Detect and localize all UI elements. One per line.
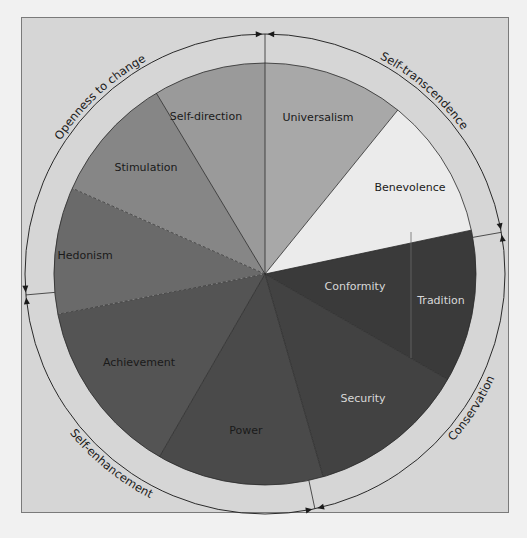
- label-self-direction: Self-direction: [170, 110, 242, 123]
- arrowhead-icon: [317, 504, 324, 510]
- label-achievement: Achievement: [103, 356, 176, 369]
- arrowhead-icon: [305, 508, 312, 514]
- label-tradition: Tradition: [416, 294, 465, 307]
- boundary-tick: [473, 232, 502, 237]
- label-hedonism: Hedonism: [57, 249, 112, 262]
- label-security: Security: [340, 392, 386, 405]
- arrowhead-icon: [22, 286, 28, 293]
- arrowhead-icon: [24, 297, 30, 304]
- label-power: Power: [229, 424, 263, 437]
- arrowhead-icon: [497, 223, 503, 230]
- arrowhead-icon: [500, 235, 506, 242]
- label-universalism: Universalism: [283, 111, 354, 124]
- values-circle-diagram: Self-directionUniversalismBenevolenceCon…: [0, 0, 527, 538]
- higher-order-label-conservation: Conservation: [445, 373, 497, 443]
- label-conformity: Conformity: [325, 280, 386, 293]
- arrowhead-icon: [268, 31, 275, 37]
- arrowhead-icon: [256, 31, 263, 37]
- label-stimulation: Stimulation: [115, 161, 178, 174]
- boundary-tick: [26, 292, 55, 295]
- boundary-tick: [309, 480, 315, 508]
- label-benevolence: Benevolence: [375, 181, 446, 194]
